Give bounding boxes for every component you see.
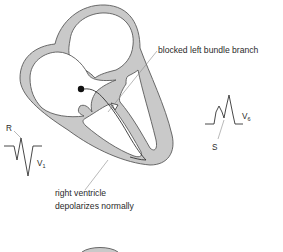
next-figure-partial [82, 248, 118, 252]
ecg-v1: R V1 [4, 124, 46, 176]
v1-r-label: R [6, 124, 12, 133]
ecg-v6: S V6 [205, 95, 251, 152]
label-rv-line2: depolarizes normally [55, 201, 135, 211]
label-rv-line1: right ventricle [55, 188, 106, 198]
v1-waveform [4, 138, 42, 176]
leader-right-ventricle [85, 160, 108, 190]
v1-lead-label: V1 [37, 159, 46, 169]
av-node [78, 86, 84, 92]
v6-waveform [205, 95, 243, 124]
v6-s-label: S [212, 143, 218, 152]
lbbb-diagram: blocked left bundle branch right ventric… [0, 0, 283, 252]
leader-r-wave [14, 131, 21, 138]
heart [20, 5, 173, 165]
leader-s-wave [218, 120, 224, 139]
label-blocked-branch: blocked left bundle branch [158, 45, 259, 55]
v6-lead-label: V6 [242, 112, 251, 122]
